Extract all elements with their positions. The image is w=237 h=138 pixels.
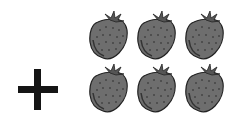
strawberry-icon <box>184 63 226 113</box>
strawberry-icon <box>184 10 226 60</box>
strawberry-icon <box>136 10 178 60</box>
plus-sign <box>18 69 58 110</box>
strawberry-icon <box>88 63 130 113</box>
plus-vertical-bar <box>34 69 41 110</box>
strawberry-grid <box>88 10 230 116</box>
strawberry-icon <box>136 63 178 113</box>
strawberry-icon <box>88 10 130 60</box>
